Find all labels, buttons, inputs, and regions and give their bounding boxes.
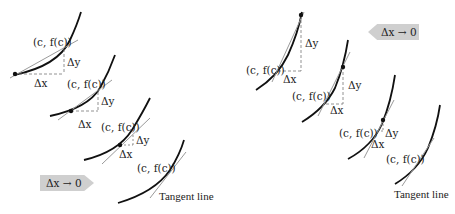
- delta-y-label: Δy: [385, 128, 399, 139]
- delta-x-label: Δx: [283, 74, 297, 85]
- point-label: (c, f(c)): [33, 37, 72, 48]
- delta-x-label: Δx: [330, 105, 344, 116]
- point-marker: [13, 72, 17, 76]
- point-marker: [69, 109, 73, 113]
- point-marker: [341, 65, 345, 69]
- delta-y-label: Δy: [101, 96, 115, 107]
- delta-y-label: Δy: [67, 57, 81, 68]
- point-marker: [299, 13, 303, 17]
- delta-x-label: Δx: [34, 78, 48, 89]
- curve: [395, 105, 440, 184]
- point-label: (c, f(c)): [386, 154, 425, 165]
- delta-x-label: Δx: [119, 149, 133, 160]
- tangent-line-label: Tangent line: [159, 191, 214, 202]
- point-marker: [381, 118, 385, 122]
- point-label: (c, f(c)): [339, 128, 378, 139]
- delta-x-to-zero-arrow-left: Δx → 0: [368, 24, 419, 40]
- tangent-line-label: Tangent line: [394, 189, 449, 200]
- delta-x-to-zero-arrow-right: Δx → 0: [40, 175, 94, 191]
- delta-y-label: Δy: [136, 135, 150, 146]
- delta-y-label: Δy: [305, 38, 319, 49]
- point-label: (c, f(c)): [246, 65, 285, 76]
- point-label: (c, f(c)): [101, 122, 140, 133]
- right-panel-4: [395, 105, 440, 186]
- point-label: (c, f(c)): [292, 91, 331, 102]
- delta-x-label: Δx: [371, 139, 385, 150]
- point-marker: [118, 143, 122, 147]
- point-label: (c, f(c)): [137, 163, 176, 174]
- point-label: (c, f(c)): [67, 79, 106, 90]
- secant-to-tangent-diagram: (c, f(c)) Δy Δx (c, f(c)) Δy Δx (c, f(c)…: [0, 0, 455, 214]
- delta-y-label: Δy: [348, 80, 362, 91]
- delta-x-label: Δx: [78, 119, 92, 130]
